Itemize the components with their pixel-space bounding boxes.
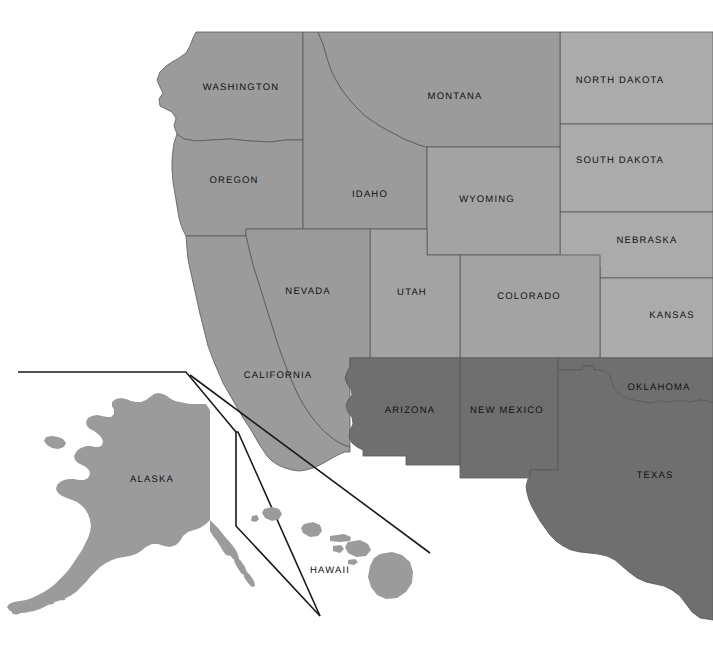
us-western-states-map: WASHINGTON OREGON IDAHO MONTANA NORTH DA… xyxy=(0,0,713,653)
state-shape-oregon[interactable] xyxy=(172,134,303,236)
state-shape-south-dakota[interactable] xyxy=(560,124,713,212)
state-shape-arizona[interactable] xyxy=(345,358,460,465)
state-shape-new-mexico[interactable] xyxy=(460,358,558,478)
state-shape-kansas[interactable] xyxy=(600,278,713,358)
state-shape-north-dakota[interactable] xyxy=(560,32,713,124)
map-svg-canvas xyxy=(0,0,713,653)
state-shape-colorado[interactable] xyxy=(460,255,600,358)
state-shape-wyoming[interactable] xyxy=(427,147,560,255)
